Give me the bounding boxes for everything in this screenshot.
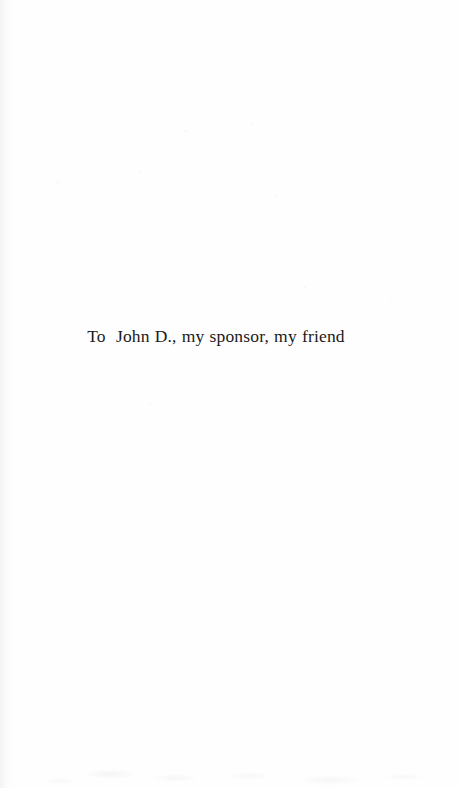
book-page: To John D., my sponsor, my friend <box>0 0 459 788</box>
dedication-block: To John D., my sponsor, my friend <box>0 326 459 347</box>
scan-gutter-shadow <box>0 0 14 788</box>
dedication-text: To John D., my sponsor, my friend <box>87 326 345 347</box>
scan-bottom-edge-shadow <box>0 718 459 788</box>
scan-speckle-noise <box>0 0 459 788</box>
